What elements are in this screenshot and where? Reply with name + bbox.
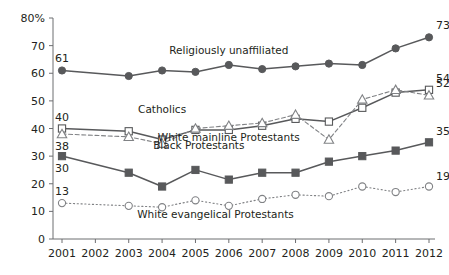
series-line bbox=[62, 187, 429, 208]
data-point bbox=[158, 183, 165, 190]
series-label: White evangelical Protestants bbox=[137, 208, 294, 220]
data-point bbox=[359, 104, 366, 111]
data-point bbox=[325, 193, 332, 200]
y-axis-tick-label: 40 bbox=[31, 123, 45, 136]
y-axis-tick-labels: 01020304050607080% bbox=[21, 12, 45, 246]
x-axis-tick-label: 2005 bbox=[181, 247, 209, 260]
data-point bbox=[125, 72, 132, 79]
data-point bbox=[358, 95, 367, 103]
data-point bbox=[325, 60, 332, 67]
y-axis-tick-label: 30 bbox=[31, 150, 45, 163]
x-axis-tick-labels: 2001200220032004200520062007200820092010… bbox=[48, 247, 443, 260]
data-point bbox=[392, 45, 399, 52]
data-point bbox=[125, 169, 132, 176]
series-end-value-label: 73 bbox=[436, 19, 449, 32]
data-point bbox=[292, 191, 299, 198]
x-axis-tick-label: 2006 bbox=[215, 247, 243, 260]
data-point bbox=[425, 183, 432, 190]
x-axis-tick-label: 2012 bbox=[415, 247, 443, 260]
data-point bbox=[192, 197, 199, 204]
series-line bbox=[62, 142, 429, 186]
x-axis-tick-label: 2008 bbox=[282, 247, 310, 260]
y-axis-tick-label: 60 bbox=[31, 67, 45, 80]
data-point bbox=[259, 169, 266, 176]
x-axis-tick-label: 2003 bbox=[115, 247, 143, 260]
data-point bbox=[225, 61, 232, 68]
series-label: Black Protestants bbox=[153, 139, 244, 151]
series-end-value-label: 19 bbox=[436, 170, 449, 183]
y-axis-tick-label: 50 bbox=[31, 95, 45, 108]
data-point bbox=[58, 199, 65, 206]
series-white-evangelical-protestants bbox=[58, 183, 432, 211]
series-end-value-label: 35 bbox=[436, 125, 449, 138]
data-point bbox=[425, 139, 432, 146]
data-point bbox=[392, 147, 399, 154]
data-point bbox=[259, 66, 266, 73]
data-point bbox=[125, 202, 132, 209]
series-start-value-label: 40 bbox=[55, 111, 69, 124]
x-axis-tick-label: 2002 bbox=[81, 247, 109, 260]
data-point bbox=[291, 110, 300, 118]
x-axis-tick-label: 2009 bbox=[315, 247, 343, 260]
data-point bbox=[259, 195, 266, 202]
y-axis-tick-label: 80% bbox=[21, 12, 45, 25]
data-point bbox=[325, 158, 332, 165]
data-point bbox=[359, 61, 366, 68]
data-point bbox=[359, 153, 366, 160]
data-point bbox=[425, 34, 432, 41]
y-axis-tick-label: 70 bbox=[31, 40, 45, 53]
y-axis-tick-label: 20 bbox=[31, 178, 45, 191]
chart-container: 01020304050607080% 200120022003200420052… bbox=[0, 0, 449, 275]
series-end-value-label: 52 bbox=[436, 77, 449, 90]
data-point bbox=[58, 153, 65, 160]
data-point bbox=[292, 169, 299, 176]
x-axis-tick-label: 2010 bbox=[348, 247, 376, 260]
data-point bbox=[158, 67, 165, 74]
data-point bbox=[392, 188, 399, 195]
y-axis-tick-label: 10 bbox=[31, 205, 45, 218]
series-start-value-label: 13 bbox=[55, 185, 69, 198]
data-point bbox=[292, 63, 299, 70]
series-label: Religiously unaffiliated bbox=[169, 44, 288, 56]
x-axis-tick-label: 2011 bbox=[382, 247, 410, 260]
data-point bbox=[325, 118, 332, 125]
series-black-protestants bbox=[58, 139, 432, 190]
series-start-value-label: 38 bbox=[55, 140, 69, 153]
series-start-value-label: 61 bbox=[55, 52, 69, 65]
x-axis-tick-label: 2007 bbox=[248, 247, 276, 260]
x-axis-tick-label: 2004 bbox=[148, 247, 176, 260]
data-point bbox=[192, 166, 199, 173]
x-axis-tick-label: 2001 bbox=[48, 247, 76, 260]
data-point bbox=[192, 68, 199, 75]
line-chart: 01020304050607080% 200120022003200420052… bbox=[0, 0, 449, 275]
y-axis-tick-label: 0 bbox=[38, 233, 45, 246]
data-point bbox=[58, 67, 65, 74]
series-religiously-unaffiliated bbox=[58, 34, 432, 80]
data-series-group bbox=[57, 34, 433, 211]
data-point bbox=[359, 183, 366, 190]
data-point bbox=[225, 176, 232, 183]
series-start-value-label: 30 bbox=[55, 162, 69, 175]
series-label: Catholics bbox=[138, 103, 186, 115]
